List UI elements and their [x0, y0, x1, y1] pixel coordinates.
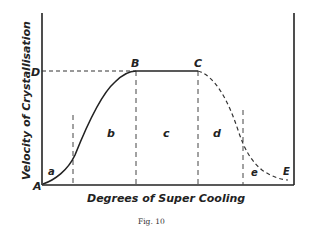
region-label-a: a [48, 166, 55, 177]
point-label-c: C [194, 57, 202, 70]
curve-decline [198, 71, 288, 180]
point-label-b: B [131, 57, 139, 70]
y-axis-label: Velocity of Crystallisation [20, 21, 33, 180]
region-label-c: c [163, 127, 170, 140]
region-label-b: b [107, 127, 115, 140]
figure-diagram: D B C A E a b c d e Velocity of Crystall… [0, 0, 311, 228]
point-label-e: E [283, 166, 290, 177]
curve-rise [43, 71, 136, 184]
x-axis-label: Degrees of Super Cooling [87, 192, 245, 205]
point-label-a: A [32, 180, 42, 193]
region-label-e: e [251, 167, 258, 178]
region-label-d: d [213, 127, 221, 140]
figure-caption: Fig. 10 [138, 217, 165, 226]
